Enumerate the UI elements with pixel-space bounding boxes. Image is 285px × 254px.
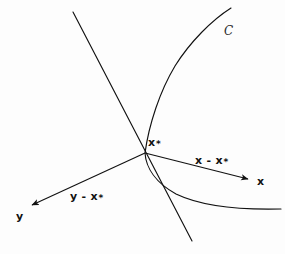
curve-label-c: C: [224, 25, 233, 37]
axis-label-x: x: [257, 176, 264, 187]
diagram-figure: C x* x - x* y - x* x y: [0, 0, 285, 254]
axis-label-y: y: [16, 211, 23, 222]
vector-label-y-minus-xstar: y - x*: [70, 191, 104, 203]
vertex-label-star: *: [155, 139, 161, 149]
vector-label-y-minus-xstar-star: *: [98, 193, 104, 203]
vector-label-x-minus-xstar-base: x - x: [195, 154, 223, 167]
diagram-canvas: [0, 0, 285, 254]
straight-line-path: [73, 12, 192, 241]
vector-label-y-minus-xstar-base: y - x: [70, 190, 98, 203]
vector-label-x-minus-xstar: x - x*: [195, 155, 228, 167]
vector-label-x-minus-xstar-star: *: [223, 157, 229, 167]
vertex-label-xstar: x*: [148, 137, 161, 149]
